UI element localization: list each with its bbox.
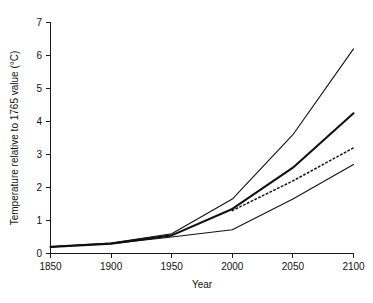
x-axis-title: Year: [192, 279, 213, 290]
plot-background: [0, 0, 373, 303]
x-tick-label-1950: 1950: [161, 261, 184, 272]
x-tick-label-2050: 2050: [282, 261, 305, 272]
temperature-projection-chart: 0 1 2 3 4 5 6 7 Temperature relative to …: [0, 0, 373, 303]
chart-container: 0 1 2 3 4 5 6 7 Temperature relative to …: [0, 0, 373, 303]
y-tick-label-0: 0: [36, 248, 42, 259]
x-tick-label-2000: 2000: [221, 261, 244, 272]
y-tick-label-3: 3: [36, 149, 42, 160]
y-tick-label-4: 4: [36, 116, 42, 127]
y-tick-label-5: 5: [36, 83, 42, 94]
x-tick-label-1900: 1900: [100, 261, 123, 272]
y-axis-title: Temperature relative to 1765 value (°C): [9, 51, 20, 226]
x-tick-label-1850: 1850: [39, 261, 62, 272]
y-tick-label-2: 2: [36, 182, 42, 193]
x-tick-label-2100: 2100: [342, 261, 365, 272]
y-tick-label-7: 7: [36, 17, 42, 28]
y-tick-label-6: 6: [36, 50, 42, 61]
y-tick-label-1: 1: [36, 215, 42, 226]
